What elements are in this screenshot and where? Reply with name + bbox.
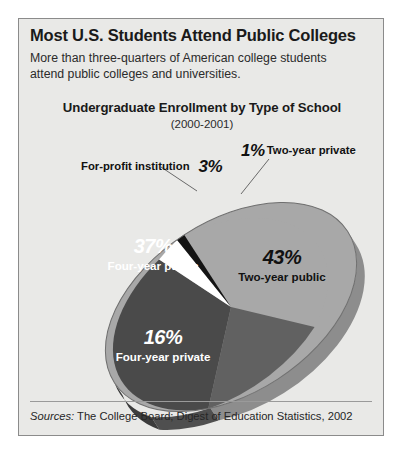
page-title: Most U.S. Students Attend Public College… xyxy=(30,26,376,44)
slice-name-four-year-public: Four-year public xyxy=(97,260,209,273)
callout-for-profit-label: For-profit institution xyxy=(81,160,190,172)
slice-name-four-year-private: Four-year private xyxy=(107,351,219,364)
infographic-panel: Most U.S. Students Attend Public College… xyxy=(18,18,384,436)
callout-two-year-private-value: 1% xyxy=(241,141,265,160)
sources-text: The College Board; Digest of Education S… xyxy=(74,410,352,422)
callout-two-year-private-label: Two-year private xyxy=(267,144,356,156)
callout-for-profit: For-profit institution3% xyxy=(81,157,222,177)
slice-name-two-year-public: Two-year public xyxy=(227,271,337,284)
sources-label: Sources: xyxy=(30,410,74,422)
callout-two-year-private: 1%Two-year private xyxy=(241,141,356,161)
callout-for-profit-value: 3% xyxy=(199,157,223,176)
slice-value-four-year-private: 16% xyxy=(107,327,219,349)
pie-top-face xyxy=(68,159,384,436)
page-subtitle: More than three-quarters of American col… xyxy=(30,50,360,83)
sources-line: Sources: The College Board; Digest of Ed… xyxy=(30,410,374,422)
chart-title: Undergraduate Enrollment by Type of Scho… xyxy=(19,100,384,115)
chart-subtitle: (2000-2001) xyxy=(19,118,384,130)
slice-value-two-year-public: 43% xyxy=(227,247,337,269)
slice-value-four-year-public: 37% xyxy=(97,236,209,258)
slice-label-four-year-public: 37% Four-year public xyxy=(97,236,209,272)
slice-label-four-year-private: 16% Four-year private xyxy=(107,327,219,363)
slice-label-two-year-public: 43% Two-year public xyxy=(227,247,337,283)
footer-divider xyxy=(30,401,372,402)
